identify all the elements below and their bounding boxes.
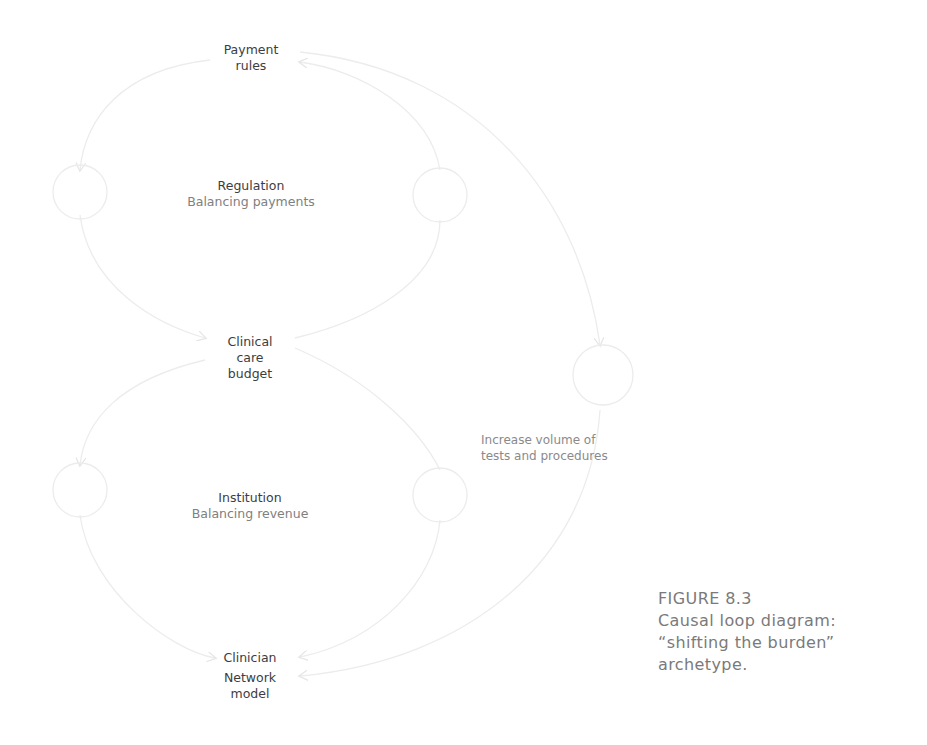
side-effect-label: Increase volume of tests and procedures <box>481 432 608 464</box>
loop-title: Regulation <box>187 178 315 194</box>
caption-line: archetype. <box>658 654 836 676</box>
loop-marker-institution-right <box>413 468 467 522</box>
node-clinical-care-budget: Clinical care budget <box>227 334 272 382</box>
loop-marker-regulation-right <box>413 168 467 222</box>
loop-subtitle: Balancing payments <box>187 194 315 210</box>
loop-marker-institution-left <box>53 463 107 517</box>
figure-caption: FIGURE 8.3 Causal loop diagram: “shiftin… <box>658 588 836 676</box>
loop-label-institution: Institution Balancing revenue <box>192 490 309 522</box>
caption-line: Causal loop diagram: <box>658 610 836 632</box>
node-clinician: Clinician <box>224 650 277 666</box>
loop-marker-regulation-left <box>53 165 107 219</box>
figure-number: FIGURE 8.3 <box>658 588 836 610</box>
loop-title: Institution <box>192 490 309 506</box>
node-network-model: Network model <box>224 670 276 702</box>
loop-label-regulation: Regulation Balancing payments <box>187 178 315 210</box>
node-payment-rules: Payment rules <box>224 42 279 74</box>
loop-subtitle: Balancing revenue <box>192 506 309 522</box>
caption-line: “shifting the burden” <box>658 632 836 654</box>
delay-marker <box>573 345 633 405</box>
